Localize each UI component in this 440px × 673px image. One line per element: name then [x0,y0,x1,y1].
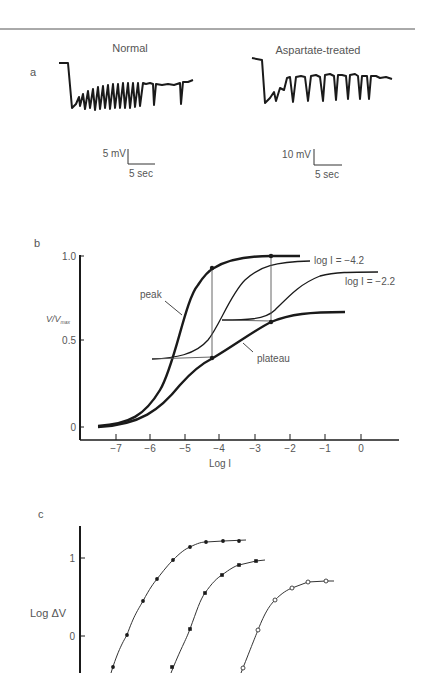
panel-c: c 1 0 Log ΔV [30,508,334,673]
b-xtick: −5 [179,443,191,454]
b-xtick: −3 [249,443,261,454]
b-xtick: −2 [284,443,296,454]
normal-scale-time: 5 sec [129,168,153,179]
figure: a Normal Aspartate-treated 5 mV 5 sec 10… [0,0,440,673]
aspartate-scale-voltage: 10 mV [282,149,311,160]
aspartate-scale-time: 5 sec [315,169,339,180]
peak-curve [98,256,300,426]
annot-plateau: plateau [257,353,290,364]
b-xtick: −6 [144,443,156,454]
aspartate-trace [252,58,392,103]
c-ylabel: Log ΔV [30,607,67,619]
b-xlabel: Log I [209,458,231,469]
b-ytick-0: 0 [70,422,76,433]
normal-scale-bar [128,149,155,164]
normal-scale-voltage: 5 mV [103,148,127,159]
b-xtick: −1 [319,443,331,454]
panel-a: a Normal Aspartate-treated 5 mV 5 sec 10… [30,42,392,180]
c-ytick-1: 1 [69,553,75,564]
b-xtick: −4 [213,443,225,454]
normal-title: Normal [112,42,147,54]
aspartate-title: Aspartate-treated [276,44,361,56]
annot-log-4-2: log I = −4.2 [314,255,364,266]
b-xtick: 0 [358,443,364,454]
normal-trace [59,63,193,110]
b-ytick-05: 0.5 [62,335,76,346]
annot-peak: peak [140,289,163,300]
plateau-curve [98,312,345,427]
annot-log-2-2: log I = −2.2 [345,276,395,287]
b-ylabel: V/Vmax [46,314,70,325]
b-ytick-1: 1.0 [62,251,76,262]
panel-b-label: b [34,237,40,249]
panel-b: b 1.0 0.5 0 V/Vmax −7 −6 −5 −4 −3 −2 −1 … [34,237,399,469]
c-series-1 [111,540,246,673]
b-xtick: −7 [110,443,122,454]
panel-a-label: a [30,66,37,78]
c-series-3 [241,581,334,673]
panel-c-label: c [38,508,44,520]
aspartate-scale-bar [314,149,342,165]
c-series-2 [171,560,265,673]
c-ytick-0: 0 [69,631,75,642]
